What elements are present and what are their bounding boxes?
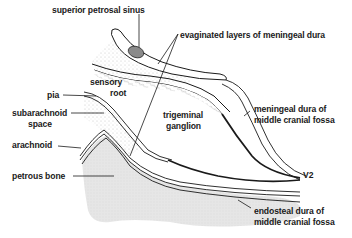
- label-endosteal-dura-fossa: middle cranial fossa: [254, 217, 335, 227]
- label-trigeminal: trigeminal: [163, 110, 203, 120]
- label-arachnoid: arachnoid: [12, 140, 52, 150]
- label-meningeal-dura-fossa: middle cranial fossa: [254, 115, 335, 125]
- label-space: space: [28, 119, 52, 129]
- meningeal-dura-outer: [226, 80, 306, 176]
- leader-arachnoid: [58, 146, 81, 148]
- label-root: root: [110, 88, 126, 98]
- label-superior-petrosal-sinus: superior petrosal sinus: [52, 5, 145, 15]
- label-evaginated-layers: evaginated layers of meningeal dura: [180, 30, 325, 40]
- label-sensory: sensory: [90, 77, 122, 87]
- label-meningeal-dura: meningeal dura of: [254, 104, 326, 114]
- diagram-canvas: superior petrosal sinus evaginated layer…: [0, 0, 352, 238]
- label-ganglion: ganglion: [166, 121, 201, 131]
- label-pia: pia: [47, 90, 59, 100]
- label-endosteal-dura: endosteal dura of: [254, 206, 324, 216]
- leader-pia: [63, 95, 96, 96]
- ganglion-lower-line: [168, 160, 300, 181]
- label-v2: V2: [303, 170, 313, 180]
- label-subarachnoid: subarachnoid: [12, 108, 67, 118]
- label-petrous-bone: petrous bone: [12, 171, 65, 181]
